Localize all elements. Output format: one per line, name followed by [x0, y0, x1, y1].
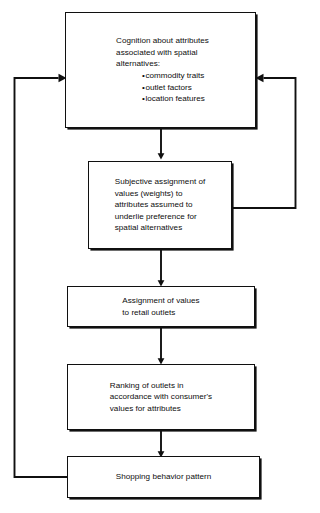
node-subjective-line-5: spatial alternatives: [115, 222, 205, 234]
node-cognition-bullet-1: commodity traits: [142, 70, 209, 82]
node-assignment-values: Assignment of values to retail outlets: [67, 286, 255, 327]
node-ranking-line-1: Ranking of outlets in: [110, 380, 212, 392]
node-shopping-behavior: Shopping behavior pattern: [67, 456, 260, 498]
node-subjective-line-3: attributes assumed to: [115, 199, 205, 211]
flowchart-diagram: Cognition about attributes associated wi…: [0, 0, 320, 513]
node-cognition-line-2: associated with spatial: [116, 47, 209, 59]
node-cognition-line-1: Cognition about attributes: [116, 35, 209, 47]
connector-shopping-feedback-left: [15, 74, 68, 477]
node-assignment-line-2: to retail outlets: [122, 307, 199, 319]
node-cognition: Cognition about attributes associated wi…: [65, 12, 256, 128]
node-ranking-outlets: Ranking of outlets in accordance with co…: [67, 364, 255, 430]
node-subjective-line-1: Subjective assignment of: [115, 176, 205, 188]
node-cognition-line-3: alternatives:: [116, 58, 209, 70]
node-subjective-line-4: underlie preference for: [115, 211, 205, 223]
node-shopping-line-1: Shopping behavior pattern: [116, 471, 211, 483]
node-ranking-line-3: values for attributes: [110, 403, 212, 415]
node-assignment-line-1: Assignment of values: [122, 295, 199, 307]
node-subjective-assignment: Subjective assignment of values (weights…: [88, 161, 232, 249]
node-cognition-bullet-3: location features: [142, 93, 209, 105]
node-cognition-bullet-2: outlet factors: [142, 82, 209, 94]
node-subjective-line-2: values (weights) to: [115, 188, 205, 200]
node-ranking-line-2: accordance with consumer's: [110, 391, 212, 403]
node-cognition-bullet-list: commodity traits outlet factors location…: [142, 70, 209, 105]
